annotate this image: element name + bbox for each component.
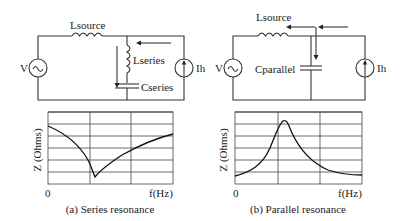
resonance-figure: Lsource Lseries Cseries V Ih [0,0,403,221]
current-arrow-icon [136,41,171,46]
series-caption: (a) Series resonance [66,203,155,216]
series-impedance-curve [48,126,173,177]
x-axis-label: f(Hz) [338,187,362,200]
current-arrow-icon [115,46,120,88]
y-axis-label: Z (Ohms) [217,128,230,171]
cparallel-label: Cparallel [255,63,295,75]
lsource-inductor-icon [258,33,288,36]
lsource-label: Lsource [70,19,106,31]
x-origin-label: 0 [45,187,51,199]
voltage-source-label: V [20,62,28,74]
cparallel-capacitor-icon [300,66,322,70]
parallel-impedance-chart: Z (Ohms) 0 f(Hz) (b) Parallel resonance [217,112,362,216]
x-axis-label: f(Hz) [149,187,173,200]
lsource-label: Lsource [256,11,292,23]
series-circuit: Lsource Lseries Cseries V Ih [20,19,206,100]
cseries-label: Cseries [141,81,173,93]
parallel-circuit: Lsource Cparallel V Ih [215,11,387,100]
y-axis-label: Z (Ohms) [31,128,44,171]
lseries-inductor-icon [127,45,130,73]
harmonic-source-label: Ih [377,62,387,74]
series-impedance-chart: Z (Ohms) 0 f(Hz) (a) Series resonance [31,112,173,216]
current-arrow-icon [286,25,315,30]
current-arrow-icon [318,25,348,30]
x-origin-label: 0 [233,187,239,199]
parallel-caption: (b) Parallel resonance [250,203,346,216]
lseries-label: Lseries [133,54,165,66]
current-arrow-icon [314,27,319,60]
voltage-source-label: V [215,62,223,74]
harmonic-source-label: Ih [196,62,206,74]
lsource-inductor-icon [72,33,102,36]
